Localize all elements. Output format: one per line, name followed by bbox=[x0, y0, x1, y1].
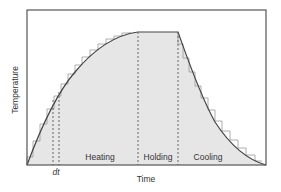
dt-label: dt bbox=[52, 167, 60, 177]
holding-label: Holding bbox=[144, 152, 173, 162]
heat-treatment-diagram: Heating Holding Cooling dt Time Temperat… bbox=[0, 0, 281, 192]
x-axis-label: Time bbox=[137, 174, 156, 184]
cooling-label: Cooling bbox=[194, 152, 223, 162]
y-axis-label: Temperature bbox=[10, 66, 20, 114]
heating-label: Heating bbox=[85, 152, 115, 162]
shaded-area bbox=[27, 32, 266, 165]
